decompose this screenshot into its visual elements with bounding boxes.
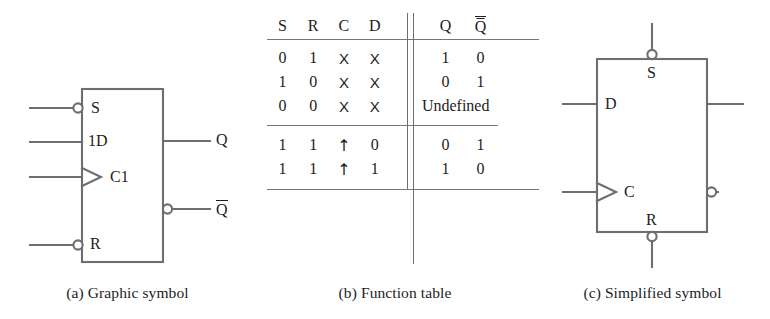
table-row: 0 0 X X Undefined bbox=[267, 94, 539, 126]
header-c: C bbox=[329, 13, 360, 40]
bubble-set-icon bbox=[73, 103, 82, 112]
clock-triangle-icon bbox=[597, 183, 616, 201]
cell-s: 0 bbox=[267, 94, 298, 126]
table-vertical-divider bbox=[413, 13, 414, 264]
cell-d: 0 bbox=[359, 126, 390, 158]
header-left-pad bbox=[408, 13, 429, 40]
cell-right-pad bbox=[498, 40, 539, 71]
pin-label-r: R bbox=[646, 212, 657, 228]
cell-right-pad bbox=[498, 157, 539, 190]
header-d: D bbox=[359, 13, 390, 40]
cell-r: 1 bbox=[298, 40, 329, 71]
header-spacer bbox=[390, 13, 406, 40]
panel-simplified-symbol: S D C R (c) Simplified symbol bbox=[535, 0, 770, 319]
cell-left-pad bbox=[408, 70, 429, 94]
header-right-pad bbox=[498, 13, 539, 40]
cell-left-pad bbox=[408, 40, 429, 71]
table-row: 1 1 ↑ 1 1 0 bbox=[267, 157, 539, 190]
cell-left-pad bbox=[408, 126, 429, 158]
cell-r: 1 bbox=[298, 157, 329, 190]
caption-panel-a: (a) Graphic symbol bbox=[0, 284, 255, 302]
header-qbar: Q̅ bbox=[463, 13, 498, 40]
cell-c: X bbox=[329, 40, 360, 71]
bubble-qbar-icon bbox=[163, 204, 172, 213]
cell-r: 1 bbox=[298, 126, 329, 158]
cell-spacer bbox=[390, 40, 406, 71]
pin-label-s: S bbox=[91, 100, 100, 116]
cell-r: 0 bbox=[298, 94, 329, 126]
caption-panel-c: (c) Simplified symbol bbox=[535, 284, 770, 302]
cell-right-pad bbox=[498, 126, 539, 158]
cell-right-pad bbox=[498, 70, 539, 94]
cell-d: 1 bbox=[359, 157, 390, 190]
cell-q: 0 bbox=[428, 126, 463, 158]
graphic-symbol-diagram bbox=[0, 0, 255, 319]
cell-spacer bbox=[390, 157, 406, 190]
cell-c: ↑ bbox=[329, 126, 360, 158]
cell-qbar: 0 bbox=[463, 40, 498, 71]
cell-q: 1 bbox=[428, 40, 463, 71]
header-s: S bbox=[267, 13, 298, 40]
simplified-symbol-diagram bbox=[535, 0, 770, 319]
bubble-qbar-icon bbox=[707, 187, 716, 196]
table-header-row: S R C D Q Q̅ bbox=[267, 13, 539, 40]
header-r: R bbox=[298, 13, 329, 40]
panel-function-table: S R C D Q Q̅ 0 bbox=[255, 0, 535, 319]
pin-label-s: S bbox=[647, 65, 656, 81]
figure-root: S 1D C1 R Q Q (a) Graphic symbol S R C D bbox=[0, 0, 770, 319]
bubble-reset-icon bbox=[647, 232, 656, 241]
cell-left-pad bbox=[408, 157, 429, 190]
cell-d: X bbox=[359, 70, 390, 94]
cell-c: ↑ bbox=[329, 157, 360, 190]
flipflop-body-rect bbox=[597, 59, 707, 232]
cell-q: 0 bbox=[428, 70, 463, 94]
cell-qbar: 1 bbox=[463, 126, 498, 158]
cell-r: 0 bbox=[298, 70, 329, 94]
caption-panel-b: (b) Function table bbox=[255, 284, 535, 302]
pin-label-clock: C bbox=[624, 184, 635, 200]
pin-label-clock: C1 bbox=[110, 169, 129, 185]
cell-s: 0 bbox=[267, 40, 298, 71]
cell-s: 1 bbox=[267, 157, 298, 190]
pin-label-r: R bbox=[90, 236, 101, 252]
cell-s: 1 bbox=[267, 126, 298, 158]
pin-label-d: D bbox=[605, 96, 617, 112]
cell-d: X bbox=[359, 94, 390, 126]
cell-q: 1 bbox=[428, 157, 463, 190]
table-row: 1 0 X X 0 1 bbox=[267, 70, 539, 94]
cell-qbar: 0 bbox=[463, 157, 498, 190]
panel-graphic-symbol: S 1D C1 R Q Q (a) Graphic symbol bbox=[0, 0, 255, 319]
cell-s: 1 bbox=[267, 70, 298, 94]
bubble-reset-icon bbox=[73, 240, 82, 249]
output-label-q: Q bbox=[216, 132, 228, 148]
cell-spacer bbox=[390, 94, 406, 126]
bubble-set-icon bbox=[647, 50, 656, 59]
cell-c: X bbox=[329, 94, 360, 126]
cell-spacer bbox=[390, 70, 406, 94]
clock-triangle-icon bbox=[82, 168, 101, 186]
cell-spacer bbox=[390, 126, 406, 158]
cell-undefined: Undefined bbox=[408, 94, 498, 126]
function-table-wrap: S R C D Q Q̅ 0 bbox=[267, 13, 539, 265]
header-qbar-text: Q̅ bbox=[475, 17, 487, 36]
table-row: 0 1 X X 1 0 bbox=[267, 40, 539, 71]
cell-d: X bbox=[359, 40, 390, 71]
header-q: Q bbox=[428, 13, 463, 40]
cell-qbar: 1 bbox=[463, 70, 498, 94]
pin-label-d: 1D bbox=[88, 133, 108, 149]
function-table: S R C D Q Q̅ 0 bbox=[267, 13, 539, 190]
table-row: 1 1 ↑ 0 0 1 bbox=[267, 126, 539, 158]
cell-c: X bbox=[329, 70, 360, 94]
output-label-qbar: Q bbox=[216, 201, 228, 218]
